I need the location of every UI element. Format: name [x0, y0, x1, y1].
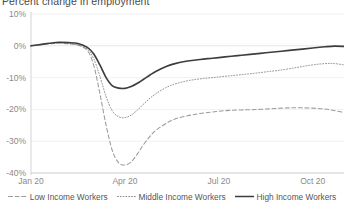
x-axis-tick-label: Apr 20: [112, 176, 137, 186]
chart-container: Percent change in employment 10%0%-10%-2…: [0, 0, 344, 203]
y-axis-tick-label: 0%: [14, 41, 27, 51]
legend-item-label: High Income Workers: [257, 193, 337, 201]
series-line-middle-income-workers: [31, 43, 344, 118]
legend-item-label: Low Income Workers: [30, 193, 108, 201]
x-axis-tick-labels: Jan 20Apr 20Jul 20Oct 20: [18, 176, 325, 186]
x-axis-tick-label: Oct 20: [300, 176, 325, 186]
chart-plot-area: 10%0%-10%-20%-30%-40% Jan 20Apr 20Jul 20…: [0, 0, 344, 186]
legend-line-swatch: [8, 193, 27, 200]
y-axis-tick-label: -30%: [6, 136, 26, 146]
legend-item-label: Middle Income Workers: [139, 193, 226, 201]
y-axis-tick-label: 10%: [9, 9, 26, 19]
series-lines-group: [31, 42, 344, 165]
y-axis-tick-labels: 10%0%-10%-20%-30%-40%: [6, 9, 26, 178]
legend-item-middle-income-workers[interactable]: Middle Income Workers: [117, 193, 226, 201]
legend-line-swatch: [117, 193, 136, 200]
chart-legend: Low Income WorkersMiddle Income WorkersH…: [0, 193, 344, 201]
legend-line-swatch: [235, 193, 254, 200]
x-axis-tick-label: Jan 20: [18, 176, 44, 186]
gridlines-group: [31, 14, 344, 173]
legend-item-low-income-workers[interactable]: Low Income Workers: [8, 193, 108, 201]
axes-group: [31, 12, 344, 175]
series-line-high-income-workers: [31, 42, 344, 88]
x-axis-tick-label: Jul 20: [207, 176, 230, 186]
y-axis-tick-label: -20%: [6, 104, 26, 114]
legend-item-high-income-workers[interactable]: High Income Workers: [235, 193, 337, 201]
y-axis-tick-label: -10%: [6, 73, 26, 83]
